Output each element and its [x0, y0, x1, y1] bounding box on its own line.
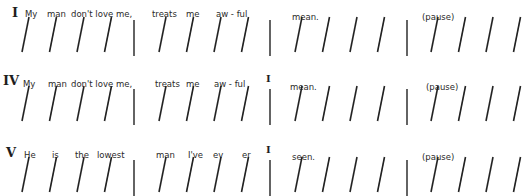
beat-slash	[242, 86, 249, 121]
beat-slash	[350, 17, 357, 52]
beat-slash	[486, 17, 493, 52]
beat-slash	[295, 157, 302, 192]
beat-slash	[214, 17, 221, 52]
beat-slash	[431, 157, 438, 192]
beat-slash	[295, 17, 302, 52]
beat-slash	[378, 17, 385, 52]
beat-slash	[323, 157, 330, 192]
beat-slash	[431, 86, 438, 121]
beat-slash	[187, 157, 194, 192]
chord-chart: I My man don't love me, treats me aw - f…	[0, 0, 527, 196]
beat-slash	[22, 157, 29, 192]
beat-slash	[378, 86, 385, 121]
beat-slash	[22, 86, 29, 121]
beat-slash	[187, 17, 194, 52]
beat-slash	[378, 157, 385, 192]
beat-slash	[77, 157, 84, 192]
beat-slash	[459, 17, 466, 52]
beat-slash	[514, 86, 521, 121]
beat-slash	[514, 157, 521, 192]
beat-slash	[159, 157, 166, 192]
rhythm-marks	[0, 0, 527, 196]
beat-slash	[22, 17, 29, 52]
beat-slash	[105, 17, 112, 52]
beat-slash	[50, 86, 57, 121]
beat-slash	[350, 157, 357, 192]
beat-slash	[514, 17, 521, 52]
beat-slash	[459, 157, 466, 192]
beat-slash	[159, 86, 166, 121]
beat-slash	[486, 86, 493, 121]
beat-slash	[159, 17, 166, 52]
beat-slash	[350, 86, 357, 121]
beat-slash	[459, 86, 466, 121]
beat-slash	[295, 86, 302, 121]
beat-slash	[242, 157, 249, 192]
beat-slash	[214, 86, 221, 121]
beat-slash	[105, 86, 112, 121]
beat-slash	[77, 86, 84, 121]
beat-slash	[242, 17, 249, 52]
beat-slash	[431, 17, 438, 52]
beat-slash	[323, 17, 330, 52]
beat-slash	[214, 157, 221, 192]
beat-slash	[187, 86, 194, 121]
beat-slash	[50, 157, 57, 192]
beat-slash	[77, 17, 84, 52]
beat-slash	[323, 86, 330, 121]
beat-slash	[105, 157, 112, 192]
beat-slash	[486, 157, 493, 192]
beat-slash	[50, 17, 57, 52]
